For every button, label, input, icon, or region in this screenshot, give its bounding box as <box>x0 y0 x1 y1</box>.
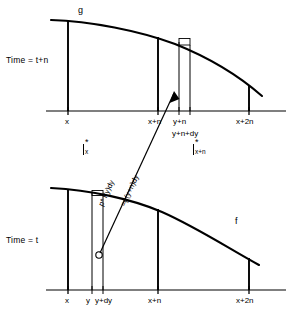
integral-bar-right <box>193 144 194 155</box>
top-tick-label-x-plus-n: x+n <box>148 118 161 126</box>
top-tick-label-x: x <box>65 118 69 126</box>
integral-symbol-left: *x <box>83 142 84 154</box>
curve-f-label: f <box>235 217 238 226</box>
curve-g-label: g <box>78 6 83 15</box>
bottom-time-label: Time = t <box>6 236 38 245</box>
top-tick-label-y-plus-n: y+n <box>173 118 186 126</box>
bottom-tick-label-x-plus-2n: x+2n <box>236 297 254 305</box>
integral-superscript-right: * <box>195 138 199 147</box>
top-element-box <box>179 39 190 46</box>
curve-g <box>51 20 262 96</box>
figure-container: Time = t+n g x x+n y+n y+n+dy x+2n Time … <box>0 0 290 310</box>
mapping-arrow-head <box>170 91 180 103</box>
mapping-arrow-shaft <box>100 93 174 253</box>
integral-bar-left <box>83 144 84 155</box>
integral-symbol-right: *x+n <box>193 142 194 154</box>
bottom-tick-label-x: x <box>65 297 69 305</box>
curve-f <box>51 188 259 265</box>
integral-superscript-left: * <box>85 138 89 147</box>
diagram-canvas <box>0 0 290 310</box>
top-time-label: Time = t+n <box>6 56 48 65</box>
integral-subscript-left: x <box>85 149 88 156</box>
mapping-arrow-origin-circle <box>96 252 102 258</box>
integral-subscript-right: x+n <box>195 149 206 156</box>
bottom-tick-label-x-plus-n: x+n <box>148 297 161 305</box>
bottom-tick-label-y-plus-dy: y+dy <box>95 297 112 305</box>
bottom-tick-label-y: y <box>86 297 90 305</box>
top-tick-label-x-plus-2n: x+2n <box>236 118 254 126</box>
